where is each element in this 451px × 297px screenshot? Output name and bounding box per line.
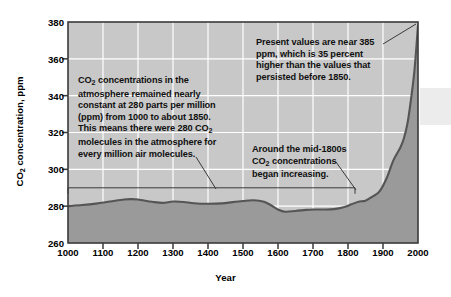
y-tick-label-340: 340 bbox=[34, 91, 64, 102]
anno-left-line5-sub: 2 bbox=[208, 126, 212, 135]
x-tick-label-1000: 1000 bbox=[48, 247, 88, 258]
y-tick-label-300: 300 bbox=[34, 164, 64, 175]
x-tick-label-1300: 1300 bbox=[153, 247, 193, 258]
x-tick-label-1900: 1900 bbox=[363, 247, 403, 258]
y-tick-label-380: 380 bbox=[34, 17, 64, 28]
y-tick-label-360: 360 bbox=[34, 54, 64, 65]
anno-left-line1-co: CO bbox=[78, 75, 92, 85]
anno-top-line1: Present values are near 385 bbox=[256, 37, 374, 47]
x-tick-label-1800: 1800 bbox=[328, 247, 368, 258]
anno-mid-line3: began increasing. bbox=[252, 169, 328, 179]
annotation-present-values: Present values are near 385ppm, which is… bbox=[256, 37, 406, 83]
x-tick-label-1500: 1500 bbox=[223, 247, 263, 258]
co2-concentration-chart-figure: 380 360 340 320 300 280 260 1000 1100 12… bbox=[0, 0, 451, 297]
anno-left-line5: This means there were 280 CO bbox=[78, 123, 208, 133]
anno-left-line4: (ppm) from 1000 to about 1850. bbox=[78, 112, 211, 122]
anno-top-line3: higher than the values that bbox=[256, 60, 370, 70]
x-tick-label-1400: 1400 bbox=[188, 247, 228, 258]
anno-mid-line2-co: CO bbox=[252, 156, 266, 166]
y-axis-title-tail: concentration, ppm bbox=[14, 76, 25, 168]
y-axis-title: CO2 concentration, ppm bbox=[14, 32, 27, 232]
y-axis-title-co: CO bbox=[14, 172, 25, 186]
x-axis-title: Year bbox=[0, 272, 451, 283]
x-tick-label-1600: 1600 bbox=[258, 247, 298, 258]
right-edge-band bbox=[420, 88, 451, 125]
x-tick-label-1100: 1100 bbox=[83, 247, 123, 258]
anno-left-line3: constant at 280 parts per million bbox=[78, 100, 216, 110]
anno-top-line4: persisted before 1850. bbox=[256, 72, 351, 82]
y-tick-label-320: 320 bbox=[34, 127, 64, 138]
anno-left-line1-tail: concentrations in the bbox=[96, 75, 189, 85]
x-tick-label-1700: 1700 bbox=[293, 247, 333, 258]
anno-mid-line2-tail: concentrations bbox=[270, 156, 337, 166]
y-tick-label-280: 280 bbox=[34, 201, 64, 212]
x-tick-label-1200: 1200 bbox=[118, 247, 158, 258]
anno-top-line2: ppm, which is 35 percent bbox=[256, 49, 363, 59]
annotation-constant-280ppm: CO2 concentrations in theatmosphere rema… bbox=[78, 75, 238, 160]
anno-mid-line1: Around the mid-1800s bbox=[252, 144, 347, 154]
x-tick-label-2000: 2000 bbox=[398, 247, 438, 258]
annotation-mid-1800s: Around the mid-1800sCO2 concentrationsbe… bbox=[252, 144, 382, 181]
y-axis-title-subscript: 2 bbox=[18, 168, 27, 172]
anno-left-line7: every million air molecules. bbox=[78, 149, 195, 159]
anno-left-line6: molecules in the atmosphere for bbox=[78, 137, 216, 147]
anno-left-line2: atmosphere remained nearly bbox=[78, 89, 201, 99]
